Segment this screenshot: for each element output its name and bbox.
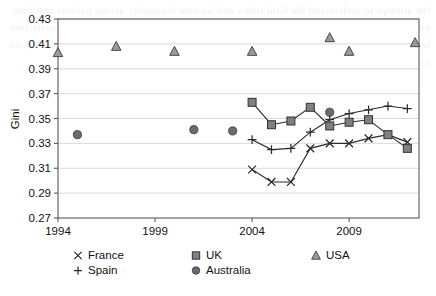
y-tick-label: 0.31	[29, 162, 51, 174]
y-tick-label: 0.33	[29, 137, 51, 149]
data-point-circle-marker	[192, 267, 200, 275]
data-point-circle-marker	[326, 108, 334, 116]
legend-entry-usa[interactable]: USA	[312, 249, 350, 261]
legend-entry-uk[interactable]: UK	[192, 249, 222, 261]
data-point-square-marker	[306, 103, 314, 111]
legend-label: UK	[206, 249, 222, 261]
legend-entry-spain[interactable]: Spain	[74, 264, 117, 276]
data-point-triangle-marker	[312, 251, 321, 259]
legend-entry-australia[interactable]: Australia	[192, 264, 251, 276]
data-point-square-marker	[248, 98, 256, 106]
y-tick-label: 0.35	[29, 113, 51, 125]
y-tick-label: 0.27	[29, 212, 51, 224]
data-point-square-marker	[403, 144, 411, 152]
y-tick-label: 0.39	[29, 63, 51, 75]
y-tick-label: 0.43	[29, 13, 51, 25]
legend-label: Spain	[88, 264, 117, 276]
y-tick-label: 0.29	[29, 187, 51, 199]
y-tick-label: 0.37	[29, 88, 51, 100]
x-tick-label: 2004	[239, 225, 265, 237]
data-point-circle-marker	[73, 131, 81, 139]
x-tick-label: 1999	[142, 225, 168, 237]
data-point-x-marker	[74, 252, 81, 259]
data-point-square-marker	[287, 117, 295, 125]
data-point-square-marker	[326, 122, 334, 130]
data-point-circle-marker	[190, 126, 198, 134]
legend-label: France	[88, 249, 124, 261]
data-point-square-marker	[192, 252, 199, 259]
y-tick-label: 0.41	[29, 38, 51, 50]
legend-label: USA	[326, 249, 350, 261]
y-axis-title: Gini	[9, 109, 21, 129]
x-tick-label: 2009	[336, 225, 362, 237]
data-point-square-marker	[365, 116, 373, 124]
data-point-circle-marker	[229, 127, 237, 135]
legend-label: Australia	[206, 264, 251, 276]
data-point-square-marker	[384, 131, 392, 139]
gini-line-chart: 0.270.290.310.330.350.370.390.410.43 199…	[0, 0, 436, 296]
y-axis: 0.270.290.310.330.350.370.390.410.43	[29, 13, 58, 224]
chart-legend: FranceSpainUKAustraliaUSA	[74, 249, 350, 276]
data-point-square-marker	[345, 118, 353, 126]
x-tick-label: 1994	[45, 225, 71, 237]
data-point-plus-marker	[74, 266, 82, 274]
data-point-square-marker	[267, 121, 275, 129]
x-axis: 1994199920042009	[45, 218, 362, 237]
legend-entry-france[interactable]: France	[74, 249, 123, 261]
